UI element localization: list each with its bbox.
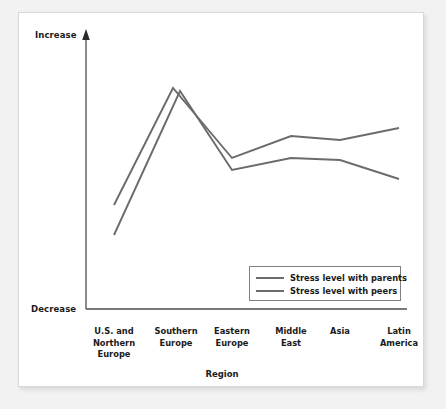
x-axis-tick-label: LatinAmerica [366,326,432,349]
legend-swatch-icon [256,277,284,279]
x-axis-tick-label: U.S. andNorthernEurope [81,326,147,361]
x-axis-tick-label: Asia [307,326,373,338]
chart-series-group [114,88,399,235]
legend-item-label: Stress level with peers [290,286,397,296]
plot-stage: Increase Decrease U.S. andNorthernEurope… [19,13,425,388]
x-axis-tick-label-line: Eastern [199,326,265,338]
legend-item-stress-with-parents: Stress level with parents [256,271,400,284]
x-axis-tick-label-line: Europe [199,338,265,350]
series-line-stress-with-parents [114,88,399,205]
x-axis-tick-label-line: Europe [81,349,147,361]
chart-legend: Stress level with parents Stress level w… [249,266,401,301]
x-axis-tick-label-line: Asia [307,326,373,338]
x-axis-tick-label-line: America [366,338,432,350]
x-axis-tick-label: EasternEurope [199,326,265,349]
legend-item-label: Stress level with parents [290,273,407,283]
x-axis-title: Region [19,369,425,379]
legend-swatch-icon [256,290,284,292]
x-axis-tick-label-line: Northern [81,338,147,350]
series-line-stress-with-peers [114,91,399,235]
x-axis-tick-label-line: Latin [366,326,432,338]
x-axis-tick-label-line: U.S. and [81,326,147,338]
y-axis-top-label: Increase [35,30,77,40]
legend-item-stress-with-peers: Stress level with peers [256,284,400,297]
x-axis-tick-label-group: U.S. andNorthernEuropeSouthernEuropeEast… [86,326,406,374]
y-axis-bottom-label: Decrease [31,304,76,314]
figure-card: Increase Decrease U.S. andNorthernEurope… [18,12,424,387]
x-axis-tick-label-line: East [258,338,324,350]
y-axis-arrowhead [82,29,90,40]
